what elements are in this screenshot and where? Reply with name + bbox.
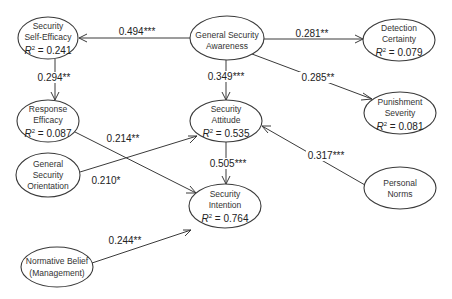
node-response-efficacy: Response Efficacy R2 = 0.087 (17, 100, 79, 142)
edge-nb-to-si: 0.244** (92, 230, 191, 263)
edge-label-nb-si: 0.244** (109, 235, 142, 246)
node-label-line: Security (211, 104, 242, 114)
r2-value: R2 = 0.535 (202, 128, 249, 139)
node-label-line: General Security (195, 30, 259, 40)
node-label-line: General (33, 159, 63, 169)
edge-label-sse-re: 0.294** (38, 72, 71, 83)
node-label-line: Security (210, 189, 241, 199)
node-label-line: Security (33, 21, 64, 31)
node-label-line: Efficacy (33, 115, 63, 125)
edge-label-gso-sa: 0.210* (92, 175, 121, 186)
node-general-security-awareness: General Security Awareness (190, 16, 264, 60)
edge-label-sa-si: 0.505*** (210, 158, 247, 169)
edge-label-gsa-sa: 0.349*** (208, 71, 245, 82)
node-label-line: Norms (387, 189, 412, 199)
node-label-line: Punishment (378, 97, 424, 107)
node-label-line: Awareness (206, 41, 248, 51)
node-detection-certainty: Detection Certainty R2 = 0.079 (363, 19, 435, 61)
r2-value: R2 = 0.241 (24, 45, 71, 56)
node-label-line: Response (29, 104, 68, 114)
edge-pn-to-sa: 0.317*** (262, 126, 365, 185)
edge-gsa-to-sse: 0.494*** (79, 26, 190, 42)
node-label-line: Attitude (212, 115, 241, 125)
edge-sse-to-re: 0.294** (35, 59, 75, 100)
node-punishment-severity: Punishment Severity R2 = 0.081 (364, 92, 436, 134)
edge-gsa-to-dc: 0.281** (264, 28, 363, 43)
arrowhead-icon (262, 126, 271, 133)
r2-value: R2 = 0.087 (24, 128, 71, 139)
path-model-diagram: 0.494*** 0.281** 0.285** 0.349*** 0.294 (0, 0, 452, 299)
edge-gsa-to-ps: 0.285** (252, 54, 372, 100)
node-label-line: Detection (381, 23, 417, 33)
node-label-line: Personal (383, 178, 417, 188)
edge-label-gsa-ps: 0.285** (302, 72, 335, 83)
edge-label-gsa-sse: 0.494*** (119, 26, 156, 37)
node-label-line: Normative Belief (26, 256, 89, 266)
r2-value: R2 = 0.764 (201, 213, 248, 224)
edge-label-gsa-dc: 0.281** (296, 28, 329, 39)
node-security-intention: Security Intention R2 = 0.764 (189, 184, 261, 228)
r2-value: R2 = 0.081 (376, 121, 423, 132)
node-normative-belief: Normative Belief (Management) (21, 247, 93, 287)
node-personal-norms: Personal Norms (364, 167, 436, 209)
edges: 0.494*** 0.281** 0.285** 0.349*** 0.294 (35, 26, 372, 263)
arrowhead-icon (186, 186, 196, 193)
node-security-attitude: Security Attitude R2 = 0.535 (190, 100, 262, 142)
edge-gsa-to-sa: 0.349*** (203, 60, 249, 100)
edge-sa-to-si: 0.505*** (206, 142, 250, 184)
node-label-line: Severity (385, 108, 416, 118)
edge-label-pn-sa: 0.317*** (308, 150, 345, 161)
node-label-line: Intention (209, 200, 242, 210)
node-general-security-orientation: General Security Orientation (16, 153, 80, 197)
node-security-self-efficacy: Security Self-Efficacy R2 = 0.241 (18, 17, 78, 59)
node-label-line: (Management) (29, 268, 84, 278)
node-label-line: Self-Efficacy (24, 32, 72, 42)
node-label-line: Security (33, 170, 64, 180)
edge-label-re-si: 0.214** (107, 133, 140, 144)
node-label-line: Certainty (382, 34, 417, 44)
r2-value: R2 = 0.079 (375, 47, 422, 58)
node-label-line: Orientation (27, 181, 69, 191)
